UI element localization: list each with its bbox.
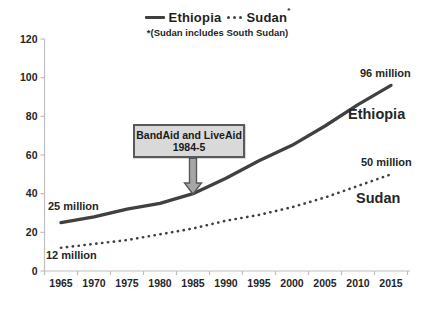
svg-text:1995: 1995 xyxy=(247,277,271,289)
svg-text:60: 60 xyxy=(26,149,38,161)
solid-line-swatch xyxy=(145,16,165,19)
ethiopia-end-label: 96 million xyxy=(360,67,411,79)
svg-text:1980: 1980 xyxy=(148,277,172,289)
svg-text:100: 100 xyxy=(20,71,38,83)
sudan-end-label: 50 million xyxy=(361,156,412,168)
ethiopia-series-label: Ethiopia xyxy=(348,106,405,122)
svg-text:2005: 2005 xyxy=(313,277,337,289)
population-line-chart: 0204060801001201965197019751980198519901… xyxy=(0,0,435,311)
legend-label-sudan: Sudan* xyxy=(246,10,290,25)
annotation-arrow xyxy=(185,158,202,194)
sudan-asterisk: * xyxy=(287,6,290,15)
svg-text:2015: 2015 xyxy=(379,277,403,289)
series-line-sudan xyxy=(61,174,391,248)
svg-text:1985: 1985 xyxy=(181,277,205,289)
legend-item-sudan: Sudan* xyxy=(227,10,290,25)
legend-label-ethiopia: Ethiopia xyxy=(169,10,222,25)
dotted-line-swatch xyxy=(227,16,242,19)
legend-footnote: *(Sudan includes South Sudan) xyxy=(0,27,435,38)
svg-text:0: 0 xyxy=(32,265,38,277)
svg-text:40: 40 xyxy=(26,187,38,199)
svg-text:2000: 2000 xyxy=(280,277,304,289)
ethiopia-start-label: 25 million xyxy=(48,200,99,212)
legend: Ethiopia Sudan* xyxy=(0,10,435,25)
callout-text-line1: BandAid and LiveAid xyxy=(136,129,242,141)
sudan-series-label: Sudan xyxy=(356,190,400,206)
svg-text:20: 20 xyxy=(26,226,38,238)
annotation-callout: BandAid and LiveAid 1984-5 xyxy=(133,124,245,158)
sudan-start-label: 12 million xyxy=(46,249,97,261)
svg-text:1990: 1990 xyxy=(214,277,238,289)
svg-text:2010: 2010 xyxy=(346,277,370,289)
legend-item-ethiopia: Ethiopia xyxy=(145,10,222,25)
svg-text:80: 80 xyxy=(26,110,38,122)
svg-text:1965: 1965 xyxy=(49,277,73,289)
svg-text:1975: 1975 xyxy=(115,277,139,289)
svg-text:1970: 1970 xyxy=(82,277,106,289)
callout-text-line2: 1984-5 xyxy=(173,141,206,153)
